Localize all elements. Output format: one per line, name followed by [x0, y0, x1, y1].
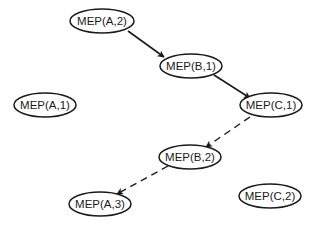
node-label: MEP(A,3): [75, 198, 125, 210]
edge-c1-to-b2-arrow: [206, 117, 250, 147]
node-label: MEP(B,2): [165, 151, 215, 163]
edge-a2-to-b1-arrow: [128, 31, 164, 57]
nodes-layer: MEP(A,2)MEP(B,1)MEP(A,1)MEP(C,1)MEP(B,2)…: [14, 9, 302, 216]
node-mep-b2: MEP(B,2): [159, 145, 221, 169]
node-mep-a2: MEP(A,2): [70, 9, 134, 33]
edge-b2-to-a3-arrow: [117, 166, 168, 194]
node-label: MEP(C,2): [245, 190, 296, 202]
node-label: MEP(C,1): [246, 99, 297, 111]
edge-b1-to-c1-arrow: [214, 75, 250, 98]
node-mep-c1: MEP(C,1): [240, 93, 302, 117]
node-label: MEP(B,1): [166, 60, 216, 72]
node-label: MEP(A,1): [20, 99, 70, 111]
diagram-canvas: MEP(A,2)MEP(B,1)MEP(A,1)MEP(C,1)MEP(B,2)…: [0, 0, 318, 231]
node-label: MEP(A,2): [77, 15, 127, 27]
mep-graph: MEP(A,2)MEP(B,1)MEP(A,1)MEP(C,1)MEP(B,2)…: [0, 0, 318, 231]
node-mep-c2: MEP(C,2): [239, 184, 301, 208]
node-mep-b1: MEP(B,1): [160, 54, 222, 78]
node-mep-a1: MEP(A,1): [14, 93, 76, 117]
node-mep-a3: MEP(A,3): [69, 192, 131, 216]
